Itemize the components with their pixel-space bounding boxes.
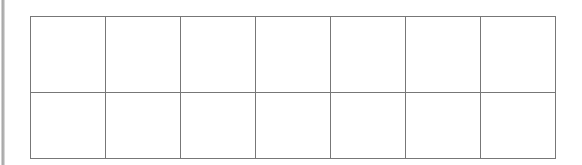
table-cell-r2c4[interactable] (256, 93, 331, 159)
left-edge-scroll-strip[interactable] (1, 0, 5, 165)
table-cell-r2c6[interactable] (406, 93, 481, 159)
table-cell-r2c2[interactable] (106, 93, 181, 159)
table-body (31, 17, 556, 159)
table-cell-r1c7[interactable] (481, 17, 556, 93)
table-cell-r2c3[interactable] (181, 93, 256, 159)
table-cell-r1c5[interactable] (331, 17, 406, 93)
page-canvas (0, 0, 582, 165)
table-cell-r2c7[interactable] (481, 93, 556, 159)
table-cell-r1c3[interactable] (181, 17, 256, 93)
table-row (31, 93, 556, 159)
table-cell-r1c1[interactable] (31, 17, 106, 93)
table-cell-r1c6[interactable] (406, 17, 481, 93)
table-row (31, 17, 556, 93)
table-cell-r2c5[interactable] (331, 93, 406, 159)
table-cell-r1c4[interactable] (256, 17, 331, 93)
table-cell-r2c1[interactable] (31, 93, 106, 159)
table-cell-r1c2[interactable] (106, 17, 181, 93)
empty-grid-table (30, 16, 556, 159)
